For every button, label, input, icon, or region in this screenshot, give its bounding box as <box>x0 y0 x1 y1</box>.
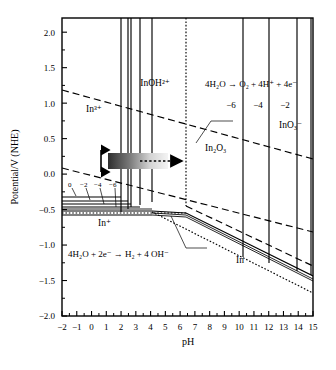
y-tick-label: 0.0 <box>44 169 56 179</box>
x-axis-tick-labels: −2−10123456789101112131415 <box>57 322 318 332</box>
y-tick-label: 2.0 <box>44 28 56 38</box>
x-axis-title: pH <box>182 336 194 347</box>
x-tick-label: 8 <box>207 322 212 332</box>
x-tick-label: 11 <box>250 322 259 332</box>
in-plus-region-boundaries <box>62 197 152 211</box>
x-tick-label: 3 <box>134 322 139 332</box>
pourbaix-diagram-figure: −2−10123456789101112131415 2.01.51.00.50… <box>0 0 336 370</box>
oxygen-evolution-equation: 4H₂O → O₂ + 4H⁺ + 4e⁻ <box>205 79 297 89</box>
conc-label-right-m2: −2 <box>280 100 290 110</box>
y-tick-label: −1.0 <box>39 240 56 250</box>
label-in-metal: In <box>236 255 244 265</box>
x-tick-label: 9 <box>222 322 227 332</box>
label-inplus: In⁺ <box>98 218 111 228</box>
vertical-boundary-lines-left <box>121 18 152 212</box>
conc-label-left-m2: −2 <box>80 181 88 189</box>
label-in3plus: In³⁺ <box>86 104 102 114</box>
y-axis-tick-labels: 2.01.51.00.50.0−0.5−1.0−1.5−2.0 <box>39 28 56 322</box>
oxygen-evolution-line <box>62 90 313 159</box>
y-tick-label: 1.5 <box>44 63 56 73</box>
conc-label-left-m4: −4 <box>94 181 102 189</box>
x-tick-label: 0 <box>89 322 94 332</box>
conc-label-right-m4: −4 <box>253 100 263 110</box>
y-axis-title: Potential/V (NHE) <box>9 129 21 204</box>
x-tick-label: 14 <box>294 322 304 332</box>
y-axis-ticks <box>62 32 67 316</box>
x-tick-label: 12 <box>264 322 273 332</box>
x-tick-label: 2 <box>119 322 124 332</box>
in-metal-descending-boundaries <box>152 206 313 281</box>
in-metal-lower-dotted-line <box>152 212 313 293</box>
vertical-boundary-lines-right <box>243 18 311 275</box>
conc-label-left-m6: −6 <box>109 181 117 189</box>
conc-label-left-0: 0 <box>68 181 72 189</box>
label-inoh2plus: InOH²⁺ <box>140 78 170 88</box>
y-tick-label: −1.5 <box>39 276 56 286</box>
x-tick-label: 1 <box>104 322 109 332</box>
label-in2o3: In₂O₃ <box>205 143 226 153</box>
x-tick-label: 10 <box>235 322 245 332</box>
y-tick-label: −0.5 <box>39 205 56 215</box>
x-tick-label: 13 <box>279 322 289 332</box>
x-tick-label: 15 <box>309 322 319 332</box>
x-tick-label: −1 <box>72 322 82 332</box>
label-ino3minus: InO₃⁻ <box>279 120 302 130</box>
conc-label-right-m6: −6 <box>226 100 236 110</box>
x-tick-label: 6 <box>178 322 183 332</box>
y-tick-label: −2.0 <box>39 311 56 321</box>
y-tick-label: 1.0 <box>44 99 56 109</box>
x-tick-label: 5 <box>163 322 168 332</box>
chart-canvas: −2−10123456789101112131415 2.01.51.00.50… <box>0 0 336 370</box>
x-tick-label: 4 <box>148 322 153 332</box>
y-tick-label: 0.5 <box>44 134 56 144</box>
hydrogen-evolution-equation: 4H₂O + 2e⁻ → H₂ + 4 OH⁻ <box>68 249 169 259</box>
plot-frame <box>62 18 313 316</box>
x-tick-label: 7 <box>193 322 198 332</box>
x-tick-label: −2 <box>57 322 67 332</box>
